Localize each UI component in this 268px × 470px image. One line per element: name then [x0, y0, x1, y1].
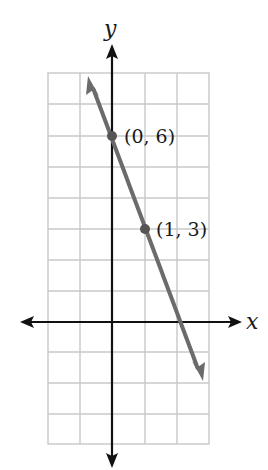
- line-down-arrow-icon: [192, 361, 205, 381]
- point-0-6: [107, 131, 117, 141]
- point-label-1-3: (1, 3): [156, 218, 207, 240]
- x-axis-label: x: [246, 309, 259, 334]
- point-label-0-6: (0, 6): [124, 125, 175, 147]
- y-axis-label: y: [103, 16, 117, 41]
- coordinate-plane: y x (0, 6) (1, 3): [0, 0, 268, 470]
- line-up-arrow-icon: [86, 76, 99, 96]
- point-1-3: [140, 224, 150, 234]
